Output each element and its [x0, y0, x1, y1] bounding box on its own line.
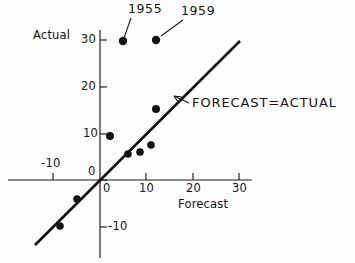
data-point [152, 105, 160, 113]
x-tick-label-20: 20 [186, 183, 201, 195]
x-tick-label-neg10: -10 [41, 158, 61, 170]
leader-line-1959 [161, 20, 183, 36]
identity-reference-line [35, 41, 240, 245]
annotation-identity-line: FORECAST=ACTUAL [192, 96, 337, 109]
scatter-plot-figure: Actual 30 20 10 0 -10 -10 0 10 20 30 For… [0, 0, 355, 263]
y-tick-label-30: 30 [81, 34, 96, 46]
data-point [73, 195, 81, 203]
data-point [106, 132, 114, 140]
data-point [136, 148, 144, 156]
y-tick-label-neg10: -10 [108, 221, 128, 233]
y-axis-title: Actual [33, 30, 70, 42]
x-tick-label-30: 30 [232, 183, 247, 195]
data-point [124, 150, 132, 158]
x-axis-title: Forecast [178, 199, 228, 211]
leader-line-1955 [124, 18, 131, 38]
data-point [56, 222, 64, 230]
y-tick-label-10: 10 [83, 128, 98, 140]
x-tick-label-10: 10 [139, 183, 154, 195]
y-tick-label-20: 20 [81, 81, 96, 93]
data-point-1955 [119, 37, 127, 45]
y-tick-label-0: 0 [88, 166, 96, 178]
x-tick-label-0: 0 [103, 183, 111, 195]
data-point-1959 [152, 36, 160, 44]
annotation-1959: 1959 [181, 5, 215, 18]
data-point [147, 141, 155, 149]
annotation-1955: 1955 [128, 3, 162, 16]
